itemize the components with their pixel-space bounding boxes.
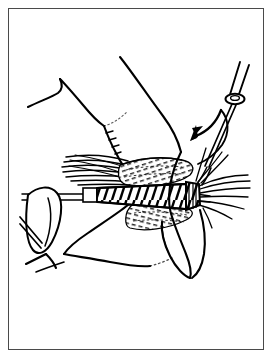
upper-wing [118,158,192,186]
fly-body [83,184,192,209]
vise-jaws [20,188,61,253]
upper-hand [28,57,181,167]
illustration-figure: Fly tying step illustration [0,0,274,359]
bobbin [205,62,249,167]
illustration-canvas [0,0,274,359]
thread-head [186,182,200,210]
